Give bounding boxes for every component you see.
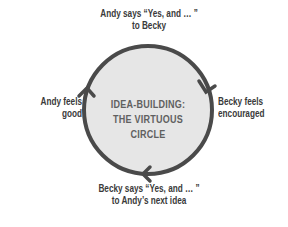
node-top-line2: to Becky xyxy=(88,20,211,32)
node-bottom-line2: to Andy’s next idea xyxy=(88,195,211,207)
node-left-andy-feels-good: Andy feels good xyxy=(15,96,82,120)
circle-title: IDEA-BUILDING: THE VIRTUOUS CIRCLE xyxy=(99,97,197,142)
node-bottom-line1: Becky says “Yes, and … ” xyxy=(88,183,211,195)
node-bottom-becky-says-yes: Becky says “Yes, and … ” to Andy’s next … xyxy=(88,183,211,207)
node-top-line1: Andy says “Yes, and … ” xyxy=(88,8,211,20)
node-left-line1: Andy feels xyxy=(15,96,82,108)
node-right-line2: encouraged xyxy=(218,108,280,120)
circle-title-line2: THE VIRTUOUS CIRCLE xyxy=(99,112,197,142)
node-right-line1: Becky feels xyxy=(218,96,280,108)
circle-title-line1: IDEA-BUILDING: xyxy=(99,97,197,112)
node-right-becky-encouraged: Becky feels encouraged xyxy=(218,96,280,120)
node-left-line2: good xyxy=(15,108,82,120)
node-top-andy-says-yes: Andy says “Yes, and … ” to Becky xyxy=(88,8,211,32)
